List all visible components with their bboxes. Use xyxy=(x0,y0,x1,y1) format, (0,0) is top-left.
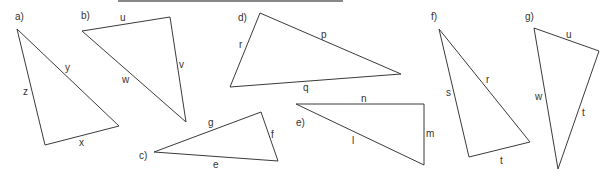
side-label: u xyxy=(120,12,126,23)
triangle-shape xyxy=(17,29,119,145)
side-label: t xyxy=(582,107,585,118)
side-label: f xyxy=(271,129,274,140)
triangle-shape xyxy=(534,28,599,169)
side-label: l xyxy=(352,135,354,146)
triangle-a: a)zyx xyxy=(15,11,119,148)
triangle-label: b) xyxy=(81,10,90,21)
side-label: p xyxy=(321,29,327,40)
side-label: r xyxy=(486,74,490,85)
triangle-label: d) xyxy=(238,12,247,23)
side-label: s xyxy=(446,87,451,98)
side-label: x xyxy=(79,137,84,148)
triangle-shape xyxy=(154,112,278,161)
side-label: r xyxy=(239,39,243,50)
triangle-g: g)uwt xyxy=(525,11,599,169)
triangles-diagram: a)zyxb)uvwc)gfed)rpqe)nlmf)srtg)uwt xyxy=(0,0,612,179)
side-label: e xyxy=(213,159,219,170)
triangle-label: g) xyxy=(525,11,534,22)
triangle-label: a) xyxy=(15,11,24,22)
triangle-c: c)gfe xyxy=(139,112,278,170)
side-label: z xyxy=(23,86,28,97)
triangle-e: e)nlm xyxy=(296,93,434,165)
triangle-label: e) xyxy=(296,117,305,128)
side-label: g xyxy=(208,117,214,128)
triangle-shape xyxy=(230,13,401,87)
side-label: n xyxy=(361,93,367,104)
side-label: t xyxy=(500,155,503,166)
side-label: w xyxy=(121,74,130,85)
triangle-d: d)rpq xyxy=(230,12,401,93)
triangle-shape xyxy=(296,104,424,165)
side-label: m xyxy=(426,128,434,139)
triangle-label: f) xyxy=(431,11,437,22)
triangle-label: c) xyxy=(139,150,147,161)
side-label: v xyxy=(179,59,184,70)
side-label: w xyxy=(534,91,543,102)
triangle-f: f)srt xyxy=(431,11,530,166)
side-label: q xyxy=(303,82,309,93)
side-label: u xyxy=(566,29,572,40)
triangle-shape xyxy=(439,29,530,157)
side-label: y xyxy=(65,62,70,73)
